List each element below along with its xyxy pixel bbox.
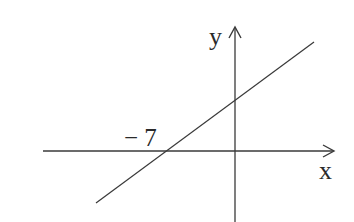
- y-axis: [229, 27, 241, 222]
- y-axis-label: y: [209, 22, 222, 51]
- coordinate-graph: y x − 7: [0, 0, 354, 222]
- function-line: [96, 42, 314, 203]
- x-intercept-label: − 7: [124, 124, 157, 151]
- x-axis: [43, 145, 334, 157]
- x-axis-label: x: [319, 156, 332, 185]
